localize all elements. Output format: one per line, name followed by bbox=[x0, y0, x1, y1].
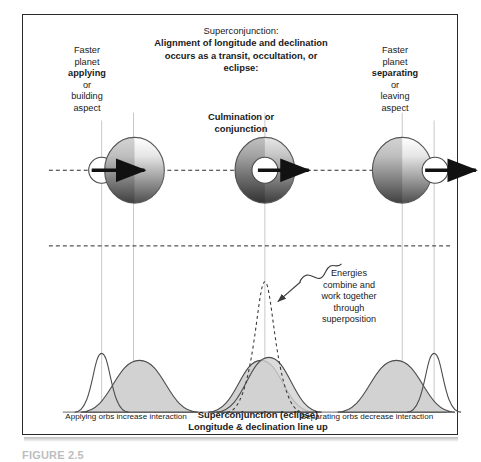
right-line-2: planet bbox=[382, 57, 407, 67]
bottom-right-label: Separating orbs decrease interaction bbox=[277, 411, 457, 423]
figure-caption: FIGURE 2.5 bbox=[22, 449, 452, 462]
diagram-stage: Superconjunction: Alignment of longitude… bbox=[23, 15, 457, 434]
figure-caption-text: FIGURE 2.5 bbox=[22, 449, 452, 462]
orb-curve-slow-separating bbox=[338, 360, 455, 412]
left-line-3: applying bbox=[68, 68, 106, 78]
left-line-4: or bbox=[83, 80, 91, 90]
title-line-2: Alignment of longitude and declination bbox=[154, 37, 327, 48]
right-line-3: separating bbox=[372, 68, 418, 78]
title-line-4: eclipse: bbox=[224, 62, 259, 73]
slow-planet-separating-shadow bbox=[372, 137, 402, 203]
annotation-line-4: through bbox=[334, 303, 365, 313]
annotation-line-5: superposition bbox=[322, 314, 376, 324]
left-line-1: Faster bbox=[74, 45, 100, 55]
right-line-4: or bbox=[391, 80, 399, 90]
left-line-2: planet bbox=[74, 57, 99, 67]
right-line-5: leaving bbox=[380, 91, 409, 101]
orb-curve-slow-applying bbox=[81, 360, 198, 412]
right-line-6: aspect bbox=[381, 103, 408, 113]
figure-title: Superconjunction: Alignment of longitude… bbox=[119, 25, 363, 75]
annotation-line-1: Energies bbox=[331, 268, 367, 278]
right-column-label: Faster planet separating or leaving aspe… bbox=[353, 45, 437, 114]
annotation-line-2: combine and bbox=[323, 280, 375, 290]
bottom-center-line-2: Longitude & declination line up bbox=[188, 421, 328, 432]
title-line-3: occurs as a transit, occultation, or bbox=[165, 50, 318, 61]
figure-drop-shadow bbox=[24, 437, 458, 442]
left-column-label: Faster planet applying or building aspec… bbox=[47, 45, 127, 114]
annotation-arrow bbox=[278, 282, 301, 302]
left-line-5: building bbox=[71, 91, 103, 101]
left-line-6: aspect bbox=[73, 103, 100, 113]
annotation-line-3: work together bbox=[321, 291, 376, 301]
center-label-line-1: Culmination or bbox=[208, 111, 274, 122]
center-label: Culmination or conjunction bbox=[163, 111, 319, 135]
figure-frame: Superconjunction: Alignment of longitude… bbox=[22, 14, 458, 435]
superposition-annotation: Energies combine and work together throu… bbox=[306, 268, 392, 326]
title-line-1: Superconjunction: bbox=[203, 25, 278, 36]
right-line-1: Faster bbox=[382, 45, 408, 55]
center-label-line-2: conjunction bbox=[214, 123, 267, 134]
